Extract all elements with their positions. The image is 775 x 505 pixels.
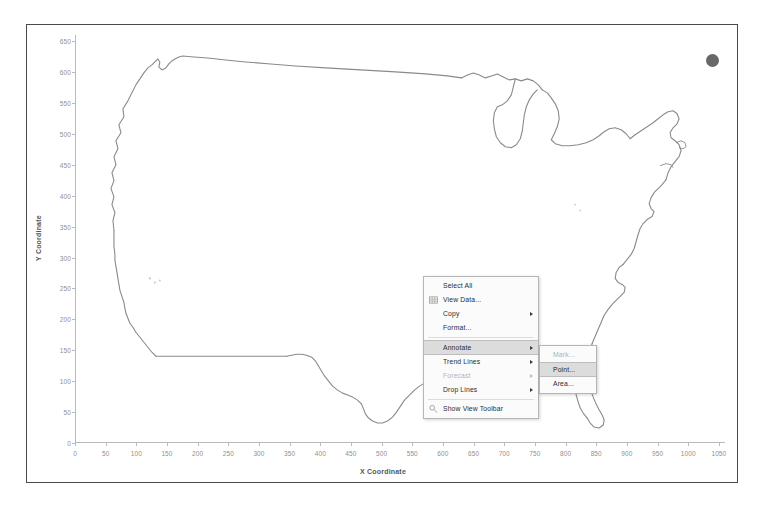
x-tick-label: 750: [529, 450, 540, 457]
y-tick-label: 650: [53, 38, 71, 45]
submenu-item-label: Point...: [553, 366, 575, 373]
x-tick-mark: [382, 443, 383, 446]
menu-item-forecast: Forecast: [424, 369, 538, 383]
submenu-arrow-icon: [530, 346, 533, 350]
y-tick-label: 0: [53, 440, 71, 447]
submenu-arrow-icon: [530, 374, 533, 378]
x-tick-mark: [106, 443, 107, 446]
x-tick-mark: [228, 443, 229, 446]
x-tick-label: 100: [131, 450, 142, 457]
x-axis-title: X Coordinate: [27, 468, 739, 475]
x-tick-label: 650: [468, 450, 479, 457]
y-tick-label: 550: [53, 100, 71, 107]
submenu-item-label: Mark...: [553, 351, 575, 358]
x-tick-label: 0: [73, 450, 77, 457]
y-tick-label: 250: [53, 285, 71, 292]
menu-separator: [428, 337, 534, 338]
menu-item-show-view-toolbar[interactable]: Show View Toolbar: [424, 402, 538, 416]
menu-item-copy[interactable]: Copy: [424, 307, 538, 321]
plot-area[interactable]: [75, 35, 725, 443]
x-tick-label: 400: [315, 450, 326, 457]
x-tick-mark: [566, 443, 567, 446]
x-tick-label: 150: [161, 450, 172, 457]
x-tick-label: 450: [345, 450, 356, 457]
menu-item-label: Trend Lines: [443, 358, 480, 365]
submenu-arrow-icon: [530, 360, 533, 364]
y-tick-label: 500: [53, 130, 71, 137]
x-tick-label: 600: [437, 450, 448, 457]
x-tick-label: 250: [223, 450, 234, 457]
x-tick-mark: [136, 443, 137, 446]
annotate-submenu[interactable]: Mark...Point...Area...: [539, 345, 597, 394]
x-tick-mark: [658, 443, 659, 446]
submenu-item-mark: Mark...: [540, 348, 596, 362]
x-tick-label: 700: [499, 450, 510, 457]
menu-item-format[interactable]: Format...: [424, 321, 538, 335]
menu-item-view-data[interactable]: View Data...: [424, 293, 538, 307]
y-tick-label: 600: [53, 69, 71, 76]
us-map-outline: [76, 35, 725, 442]
x-tick-mark: [75, 443, 76, 446]
toolbar-icon: [429, 405, 438, 414]
x-tick-label: 300: [253, 450, 264, 457]
x-tick-label: 800: [560, 450, 571, 457]
menu-item-label: Copy: [443, 310, 459, 317]
y-tick-label: 450: [53, 161, 71, 168]
x-tick-label: 900: [621, 450, 632, 457]
x-tick-label: 850: [591, 450, 602, 457]
x-tick-label: 50: [102, 450, 109, 457]
x-tick-mark: [259, 443, 260, 446]
x-tick-mark: [351, 443, 352, 446]
x-tick-label: 350: [284, 450, 295, 457]
submenu-item-point[interactable]: Point...: [540, 362, 596, 377]
menu-item-label: Select All: [443, 282, 472, 289]
menu-separator: [428, 399, 534, 400]
menu-item-label: Drop Lines: [443, 386, 477, 393]
menu-item-label: Format...: [443, 324, 472, 331]
x-tick-label: 950: [652, 450, 663, 457]
y-tick-label: 100: [53, 378, 71, 385]
x-tick-mark: [167, 443, 168, 446]
y-tick-label: 300: [53, 254, 71, 261]
x-tick-mark: [320, 443, 321, 446]
menu-item-drop-lines[interactable]: Drop Lines: [424, 383, 538, 397]
y-tick-label: 150: [53, 347, 71, 354]
y-tick-label: 50: [53, 409, 71, 416]
menu-item-label: Annotate: [443, 344, 471, 351]
x-tick-label: 1000: [681, 450, 696, 457]
x-tick-label: 550: [407, 450, 418, 457]
x-tick-mark: [412, 443, 413, 446]
y-tick-label: 350: [53, 223, 71, 230]
x-tick-label: 1050: [711, 450, 726, 457]
x-tick-mark: [474, 443, 475, 446]
menu-item-label: Forecast: [443, 372, 471, 379]
submenu-arrow-icon: [530, 388, 533, 392]
submenu-arrow-icon: [530, 312, 533, 316]
worksheet-frame: Y Coordinate X Coordinate 05010015020025…: [26, 24, 738, 483]
menu-item-trend-lines[interactable]: Trend Lines: [424, 355, 538, 369]
x-tick-mark: [627, 443, 628, 446]
x-tick-mark: [688, 443, 689, 446]
x-tick-mark: [443, 443, 444, 446]
x-tick-mark: [596, 443, 597, 446]
y-axis-title: Y Coordinate: [35, 215, 42, 261]
y-tick-label: 400: [53, 192, 71, 199]
data-point-outlier[interactable]: [706, 54, 719, 67]
menu-item-label: Show View Toolbar: [443, 405, 503, 412]
context-menu[interactable]: Select AllView Data...CopyFormat...Annot…: [423, 276, 539, 419]
table-icon: [429, 296, 438, 305]
submenu-item-label: Area...: [553, 380, 574, 387]
screenshot-canvas: Y Coordinate X Coordinate 05010015020025…: [0, 0, 775, 505]
x-tick-label: 200: [192, 450, 203, 457]
menu-item-label: View Data...: [443, 296, 481, 303]
x-tick-mark: [290, 443, 291, 446]
x-tick-mark: [198, 443, 199, 446]
y-tick-label: 200: [53, 316, 71, 323]
x-tick-label: 500: [376, 450, 387, 457]
menu-item-select-all[interactable]: Select All: [424, 279, 538, 293]
submenu-item-area[interactable]: Area...: [540, 377, 596, 391]
x-tick-mark: [719, 443, 720, 446]
x-tick-mark: [535, 443, 536, 446]
menu-item-annotate[interactable]: Annotate: [424, 340, 538, 355]
x-tick-mark: [504, 443, 505, 446]
